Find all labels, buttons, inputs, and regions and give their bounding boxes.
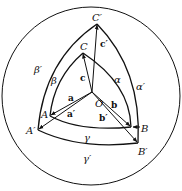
label-O: O [95,98,103,109]
label-vector-c-prime: c′ [100,39,108,49]
spherical-triangle-diagram: C′ C O A A′ B B′ c′ c a a′ b b′ β′ β α α… [0,0,182,191]
label-vector-a-prime: a′ [67,109,76,119]
label-A-prime: A′ [25,125,36,136]
vector-c-prime [92,25,97,92]
label-C-prime: C′ [92,12,103,23]
label-beta-prime: β′ [33,64,43,75]
label-B: B [140,123,148,134]
label-vector-c: c [80,73,86,83]
label-C: C [80,41,88,52]
label-beta: β [50,75,57,86]
label-A: A [40,109,48,120]
label-vector-b-prime: b′ [99,113,108,123]
label-alpha: α [114,74,121,85]
label-gamma: γ [84,132,90,143]
label-vector-a: a [68,93,74,103]
diagram-canvas: C′ C O A A′ B B′ c′ c a a′ b b′ β′ β α α… [0,0,182,191]
label-vector-b: b [111,100,117,110]
label-alpha-prime: α′ [136,81,146,92]
label-B-prime: B′ [137,146,148,157]
label-gamma-prime: γ′ [83,153,92,164]
